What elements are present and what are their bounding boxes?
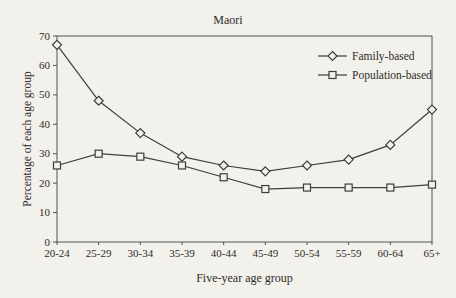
data-point-population-based-20-24 xyxy=(54,162,61,169)
x-tick-label: 30-34 xyxy=(127,247,153,259)
plot-border xyxy=(57,36,432,242)
data-point-population-based-40-44 xyxy=(220,174,227,181)
series-line-population-based xyxy=(57,154,432,189)
y-axis-title: Percentage of each age group xyxy=(21,71,33,206)
data-point-family-based-50-54 xyxy=(303,161,312,170)
line-chart-canvas: 01020304050607020-2425-2930-3435-3940-44… xyxy=(0,0,456,298)
data-point-family-based-40-44 xyxy=(219,161,228,170)
data-point-population-based-60-64 xyxy=(387,184,394,191)
data-point-population-based-30-34 xyxy=(137,153,144,160)
chart-figure: Maori Percentage of each age group 01020… xyxy=(0,0,456,298)
data-point-family-based-20-24 xyxy=(53,40,62,49)
y-tick-label: 0 xyxy=(45,236,51,248)
data-point-population-based-45-49 xyxy=(262,186,269,193)
x-tick-label: 25-29 xyxy=(86,247,112,259)
data-point-population-based-55-59 xyxy=(345,184,352,191)
y-tick-label: 20 xyxy=(39,177,51,189)
y-tick-label: 30 xyxy=(39,147,51,159)
legend-label-family-based: Family-based xyxy=(352,50,415,63)
chart-title: Maori xyxy=(0,13,456,28)
y-tick-label: 40 xyxy=(39,118,51,130)
y-tick-label: 70 xyxy=(39,30,51,42)
y-tick-label: 60 xyxy=(39,59,51,71)
x-tick-label: 55-59 xyxy=(336,247,362,259)
legend-diamond-icon xyxy=(328,52,337,61)
x-tick-label: 35-39 xyxy=(169,247,195,259)
x-tick-label: 45-49 xyxy=(252,247,278,259)
series-line-family-based xyxy=(57,45,432,172)
y-tick-label: 50 xyxy=(39,88,51,100)
data-point-family-based-45-49 xyxy=(261,167,270,176)
legend-label-population-based: Population-based xyxy=(352,69,432,82)
legend-square-icon xyxy=(329,72,336,79)
data-point-population-based-35-39 xyxy=(179,162,186,169)
data-point-population-based-50-54 xyxy=(304,184,311,191)
x-axis-title: Five-year age group xyxy=(57,271,432,286)
x-tick-label: 40-44 xyxy=(211,247,237,259)
y-tick-label: 10 xyxy=(39,206,51,218)
data-point-family-based-55-59 xyxy=(344,155,353,164)
x-tick-label: 50-54 xyxy=(294,247,320,259)
data-point-population-based-25-29 xyxy=(95,150,102,157)
data-point-family-based-35-39 xyxy=(178,152,187,161)
data-point-population-based-65+ xyxy=(429,181,436,188)
x-tick-label: 20-24 xyxy=(44,247,70,259)
x-tick-label: 60-64 xyxy=(377,247,403,259)
x-tick-label: 65+ xyxy=(423,247,440,259)
